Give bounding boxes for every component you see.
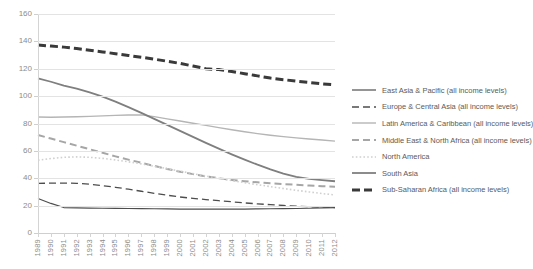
- x-axis-tick: [103, 233, 104, 237]
- gridline: [38, 151, 335, 152]
- legend-swatch-icon: [352, 102, 376, 112]
- x-axis-tick-label: 2011: [318, 239, 326, 256]
- y-axis-tick-label: 20: [8, 202, 32, 210]
- x-axis-tick-label: 1995: [111, 239, 119, 257]
- y-axis-tick-label: 160: [8, 10, 32, 18]
- legend-item[interactable]: Europe & Central Asia (all income levels…: [352, 99, 526, 116]
- x-axis-tick-label: 2006: [254, 239, 262, 257]
- x-axis-tick-label: 2001: [189, 239, 197, 257]
- x-axis-tick-label: 1989: [34, 239, 42, 257]
- series-line: [38, 78, 335, 181]
- x-axis-tick: [258, 233, 259, 237]
- x-axis-tick: [115, 233, 116, 237]
- series-line: [38, 45, 335, 85]
- y-axis-tick-label: 100: [8, 92, 32, 100]
- x-axis-tick-label: 1992: [73, 239, 81, 257]
- x-axis-line: [38, 233, 335, 234]
- x-axis-tick: [193, 233, 194, 237]
- x-axis-tick: [322, 233, 323, 237]
- legend-swatch-icon: [352, 85, 376, 95]
- y-axis-tick-label: 120: [8, 65, 32, 73]
- legend-item-label: Sub-Saharan Africa (all income levels): [382, 185, 509, 194]
- y-axis-tick-label: 140: [8, 37, 32, 45]
- x-axis-tick-label: 2000: [176, 239, 184, 257]
- y-axis-tick-label: 0: [8, 229, 32, 237]
- gridline: [38, 69, 335, 70]
- gridline: [38, 14, 335, 15]
- x-axis-tick-label: 1997: [137, 239, 145, 257]
- legend-swatch-icon: [352, 118, 376, 128]
- x-axis-tick-label: 2002: [202, 239, 210, 257]
- x-axis-tick: [64, 233, 65, 237]
- x-axis-tick: [38, 233, 39, 237]
- x-axis-tick: [206, 233, 207, 237]
- x-axis-tick: [219, 233, 220, 237]
- x-axis-tick-label: 1996: [124, 239, 132, 257]
- legend-item-label: North America: [382, 152, 430, 161]
- x-axis-tick-label: 2012: [331, 239, 339, 257]
- legend-item-label: East Asia & Pacific (all income levels): [382, 86, 507, 95]
- x-axis-tick-label: 2009: [292, 239, 300, 257]
- series-line: [38, 199, 335, 210]
- x-axis-tick: [141, 233, 142, 237]
- x-axis-tick-label: 2005: [241, 239, 249, 257]
- y-axis-tick-label: 60: [8, 147, 32, 155]
- x-axis-tick: [167, 233, 168, 237]
- x-axis-tick: [232, 233, 233, 237]
- legend-item[interactable]: Latin America & Caribbean (all income le…: [352, 115, 526, 132]
- legend-item-label: Latin America & Caribbean (all income le…: [382, 119, 533, 128]
- x-axis-tick-label: 1993: [86, 239, 94, 257]
- legend-item[interactable]: East Asia & Pacific (all income levels): [352, 82, 526, 99]
- legend-swatch-icon: [352, 185, 376, 195]
- x-axis-tick: [335, 233, 336, 237]
- gridline: [38, 178, 335, 179]
- y-axis-tick-label: 80: [8, 120, 32, 128]
- x-axis-tick: [283, 233, 284, 237]
- x-axis-tick: [309, 233, 310, 237]
- x-axis-tick-label: 2004: [228, 239, 236, 257]
- x-axis-tick: [90, 233, 91, 237]
- y-axis-tick-label: 40: [8, 174, 32, 182]
- plot-area: [38, 14, 335, 233]
- x-axis-tick: [77, 233, 78, 237]
- x-axis-tick-label: 2003: [215, 239, 223, 257]
- legend-item-label: Middle East & North Africa (all income l…: [382, 136, 532, 145]
- legend-item[interactable]: Sub-Saharan Africa (all income levels): [352, 182, 526, 199]
- gridline: [38, 124, 335, 125]
- x-axis-tick-label: 1994: [99, 239, 107, 257]
- legend-swatch-icon: [352, 152, 376, 162]
- series-line: [38, 115, 335, 141]
- legend-item[interactable]: Middle East & North Africa (all income l…: [352, 132, 526, 149]
- x-axis-tick-label: 1991: [60, 239, 68, 257]
- legend-item[interactable]: North America: [352, 148, 526, 165]
- x-axis-tick-label: 2007: [266, 239, 274, 257]
- x-axis-tick: [270, 233, 271, 237]
- chart-legend: East Asia & Pacific (all income levels)E…: [352, 82, 526, 198]
- x-axis-tick-label: 2008: [279, 239, 287, 257]
- x-axis-tick: [51, 233, 52, 237]
- x-axis-tick-label: 1990: [47, 239, 55, 257]
- x-axis-tick: [180, 233, 181, 237]
- x-axis-tick: [154, 233, 155, 237]
- legend-item-label: South Asia: [382, 169, 418, 178]
- x-axis-tick: [245, 233, 246, 237]
- legend-item[interactable]: South Asia: [352, 165, 526, 182]
- x-axis-tick-label: 1999: [163, 239, 171, 257]
- legend-swatch-icon: [352, 135, 376, 145]
- gridline: [38, 41, 335, 42]
- x-axis-tick-label: 2010: [305, 239, 313, 257]
- x-axis-tick: [296, 233, 297, 237]
- x-axis-tick-label: 1998: [150, 239, 158, 257]
- gridline: [38, 206, 335, 207]
- legend-item-label: Europe & Central Asia (all income levels…: [382, 102, 518, 111]
- series-line: [38, 183, 335, 208]
- x-axis-tick: [128, 233, 129, 237]
- legend-swatch-icon: [352, 168, 376, 178]
- gridline: [38, 96, 335, 97]
